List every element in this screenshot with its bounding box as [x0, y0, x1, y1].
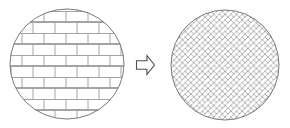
figure-root: Brick bond pattern transformation diagra…: [0, 0, 290, 128]
left-pattern-fill: [8, 7, 128, 123]
right-pattern-fill: [168, 8, 284, 124]
transformation-arrow: [137, 56, 155, 75]
diagram-svg: [0, 0, 290, 128]
diagram-stage: [0, 0, 290, 128]
arrow-icon: [137, 56, 155, 75]
right-shape-group: [168, 8, 284, 124]
left-shape-group: [8, 7, 128, 123]
